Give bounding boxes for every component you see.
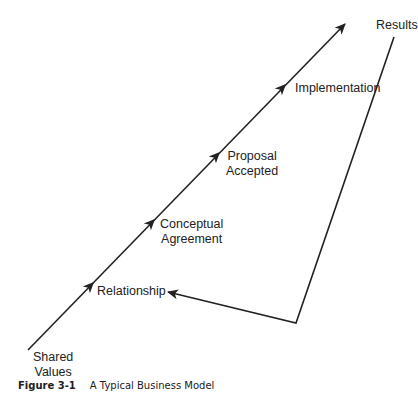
label-line: Shared <box>33 350 73 365</box>
label-line: Conceptual <box>160 217 223 232</box>
label-proposal-accepted: Proposal Accepted <box>226 149 278 179</box>
label-line: Accepted <box>226 164 278 179</box>
feedback-loop-line <box>168 37 394 323</box>
label-line: Agreement <box>160 232 223 247</box>
figure-number: Figure 3-1 <box>18 380 76 391</box>
progression-line <box>28 24 345 350</box>
label-shared-values: Shared Values <box>33 350 73 380</box>
label-conceptual-agreement: Conceptual Agreement <box>160 217 223 247</box>
label-implementation: Implementation <box>295 81 380 96</box>
business-model-diagram <box>0 0 418 405</box>
label-relationship: Relationship <box>97 284 166 299</box>
label-line: Values <box>33 365 73 380</box>
label-line: Proposal <box>226 149 278 164</box>
figure-title: A Typical Business Model <box>90 380 215 391</box>
label-results: Results <box>376 18 418 33</box>
figure-caption: Figure 3-1A Typical Business Model <box>18 380 214 391</box>
